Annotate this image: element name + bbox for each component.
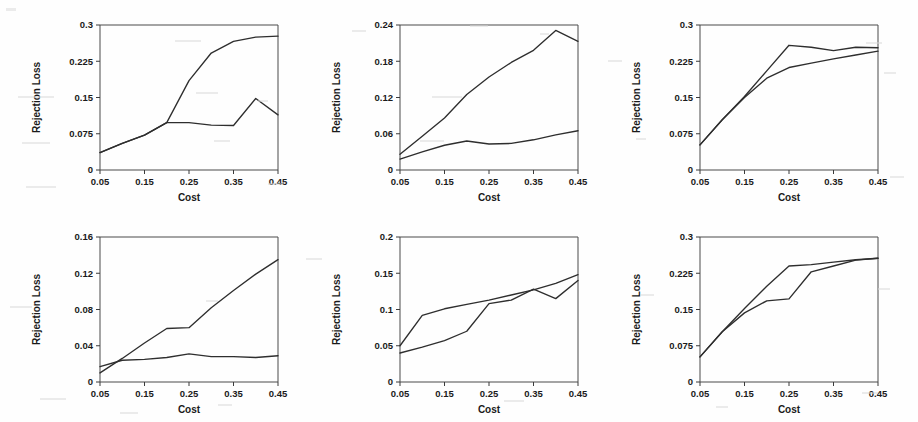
scan-artifact	[120, 412, 138, 414]
x-tick-label: 0.15	[735, 388, 754, 399]
y-tick-label: 0.18	[375, 56, 394, 67]
series-curve-lower	[700, 258, 878, 357]
plot-frame	[700, 25, 878, 170]
chart-panel-2: 00.060.120.180.240.050.150.250.350.45Cos…	[300, 0, 606, 208]
y-tick-label: 0	[688, 164, 693, 175]
y-tick-label: 0.3	[680, 231, 693, 242]
y-tick-label: 0.15	[675, 92, 694, 103]
y-tick-label: 0	[388, 376, 393, 387]
x-tick-label: 0.35	[224, 176, 243, 187]
x-tick-label: 0.25	[480, 176, 499, 187]
series-curve-lower	[400, 131, 578, 159]
scan-artifact	[196, 92, 218, 94]
scan-artifact	[640, 294, 654, 296]
x-axis-title: Cost	[478, 192, 501, 203]
y-tick-label: 0.06	[375, 128, 394, 139]
x-axis: 0.050.150.250.350.45	[91, 382, 288, 399]
x-tick-label: 0.35	[824, 388, 843, 399]
chart-panel-4: 00.040.080.120.160.050.150.250.350.45Cos…	[0, 206, 306, 420]
y-axis-title: Rejection Loss	[631, 274, 642, 346]
plot-frame	[400, 237, 578, 382]
x-tick-label: 0.25	[780, 176, 799, 187]
y-tick-label: 0.08	[75, 304, 94, 315]
y-tick-label: 0.15	[675, 304, 694, 315]
series-curve-lower	[700, 51, 878, 145]
x-tick-label: 0.15	[435, 388, 454, 399]
x-tick-label: 0.05	[391, 388, 410, 399]
series-curve-upper	[700, 45, 878, 145]
chart-panel-6: 00.0750.150.2250.30.050.150.250.350.45Co…	[600, 206, 906, 420]
y-tick-label: 0.225	[69, 56, 93, 67]
chart-panel-1: 00.0750.150.2250.30.050.150.250.350.45Co…	[0, 0, 306, 208]
y-tick-label: 0.225	[669, 56, 693, 67]
y-tick-label: 0.15	[375, 268, 394, 279]
x-tick-label: 0.35	[824, 176, 843, 187]
series-curve-lower	[400, 281, 578, 354]
figure-canvas: 00.0750.150.2250.30.050.150.250.350.45Co…	[0, 0, 918, 422]
series-curve-upper	[400, 275, 578, 346]
scan-artifact	[10, 306, 32, 308]
scan-artifact	[218, 404, 232, 406]
scan-artifact	[420, 140, 444, 142]
y-tick-label: 0.1	[380, 304, 394, 315]
y-axis: 00.050.10.150.2	[375, 231, 401, 387]
x-tick-label: 0.25	[780, 388, 799, 399]
y-tick-label: 0.3	[80, 19, 93, 30]
x-tick-label: 0.35	[224, 388, 243, 399]
y-tick-label: 0	[88, 164, 93, 175]
y-tick-label: 0.12	[75, 268, 94, 279]
chart-panel-5: 00.050.10.150.20.050.150.250.350.45CostR…	[300, 206, 606, 420]
x-tick-label: 0.05	[91, 176, 110, 187]
y-tick-label: 0.24	[375, 19, 394, 30]
y-tick-label: 0.075	[69, 128, 93, 139]
x-axis-title: Cost	[778, 192, 801, 203]
x-tick-label: 0.15	[135, 388, 154, 399]
x-axis: 0.050.150.250.350.45	[691, 170, 888, 187]
y-axis-title: Rejection Loss	[331, 62, 342, 134]
x-tick-label: 0.45	[569, 388, 588, 399]
scan-artifact	[504, 400, 524, 402]
x-axis: 0.050.150.250.350.45	[391, 382, 588, 399]
chart-panel-3: 00.0750.150.2250.30.050.150.250.350.45Co…	[600, 0, 906, 208]
x-tick-label: 0.45	[269, 176, 288, 187]
y-tick-label: 0.075	[669, 340, 693, 351]
x-axis-title: Cost	[178, 192, 201, 203]
plot-frame	[400, 25, 578, 170]
x-axis-title: Cost	[178, 404, 201, 415]
y-tick-label: 0.2	[380, 231, 393, 242]
scan-artifact	[352, 30, 366, 32]
plot-frame	[100, 25, 278, 170]
scan-artifact	[540, 33, 549, 35]
series-curve-upper	[700, 258, 878, 357]
x-axis: 0.050.150.250.350.45	[91, 170, 288, 187]
scan-artifact	[258, 100, 268, 102]
scan-artifact	[890, 176, 904, 178]
y-tick-label: 0.225	[669, 268, 693, 279]
y-axis: 00.040.080.120.16	[75, 231, 101, 387]
series-curve-lower	[100, 98, 278, 152]
y-axis-title: Rejection Loss	[631, 62, 642, 134]
x-tick-label: 0.35	[524, 388, 543, 399]
y-axis-title: Rejection Loss	[31, 274, 42, 346]
y-tick-label: 0.05	[375, 340, 394, 351]
scan-artifact	[878, 288, 890, 290]
y-tick-label: 0.15	[75, 92, 94, 103]
scan-artifact	[6, 8, 16, 11]
y-tick-label: 0.075	[669, 128, 693, 139]
y-axis: 00.060.120.180.24	[375, 19, 401, 175]
scan-artifact	[608, 60, 622, 62]
y-tick-label: 0	[388, 164, 393, 175]
x-tick-label: 0.05	[691, 176, 710, 187]
x-tick-label: 0.05	[391, 176, 410, 187]
x-tick-label: 0.35	[524, 176, 543, 187]
scan-artifact	[866, 42, 882, 44]
x-tick-label: 0.45	[569, 176, 588, 187]
scan-artifact	[175, 40, 201, 42]
scan-artifact	[268, 183, 282, 185]
scan-artifact	[214, 140, 230, 142]
x-tick-label: 0.25	[480, 388, 499, 399]
x-axis-title: Cost	[778, 404, 801, 415]
x-tick-label: 0.05	[691, 388, 710, 399]
scan-artifact	[40, 398, 66, 400]
scan-artifact	[470, 25, 488, 27]
